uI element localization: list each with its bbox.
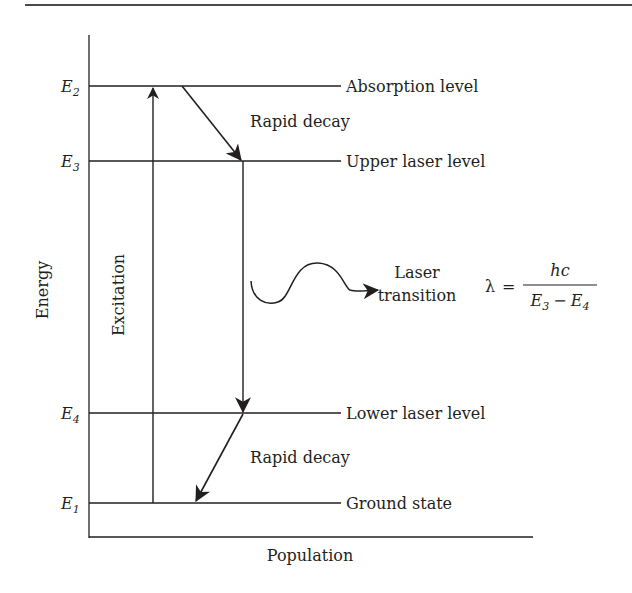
svg-text:Laser: Laser xyxy=(394,263,440,282)
formula-equals: = xyxy=(502,277,515,296)
excitation-label: Excitation xyxy=(109,254,128,336)
photon-wave-arrow-icon xyxy=(251,263,378,303)
level-e3: E3 Upper laser level xyxy=(60,152,485,174)
laser-transition-label: Laser transition xyxy=(378,263,457,305)
formula-numerator: hc xyxy=(550,261,569,280)
level-e3-symbol: E3 xyxy=(60,152,80,174)
svg-text:transition: transition xyxy=(378,286,457,305)
transitions: Excitation Rapid decay Rapid decay xyxy=(109,86,350,503)
formula-denominator: E3−E4 xyxy=(530,291,590,313)
level-e1-symbol: E1 xyxy=(60,494,80,516)
level-e2-symbol: E2 xyxy=(60,77,80,99)
level-e4: E4 Lower laser level xyxy=(60,404,485,426)
level-e1: E1 Ground state xyxy=(60,494,452,516)
level-e3-name: Upper laser level xyxy=(346,152,485,171)
level-e4-name: Lower laser level xyxy=(346,404,485,423)
level-e4-symbol: E4 xyxy=(60,404,80,426)
rapid-decay-lower-label: Rapid decay xyxy=(250,448,350,467)
y-axis-label: Energy xyxy=(33,261,52,319)
wavelength-formula: λ = hc E3−E4 xyxy=(485,261,597,313)
rapid-decay-lower-arrow-icon xyxy=(196,414,243,501)
four-level-laser-diagram: Energy Population E2 Absorption level E3… xyxy=(0,0,632,593)
rapid-decay-upper-arrow-icon xyxy=(182,86,241,160)
rapid-decay-upper-label: Rapid decay xyxy=(250,112,350,131)
level-e2-name: Absorption level xyxy=(345,77,478,96)
x-axis-label: Population xyxy=(267,546,353,565)
level-e2: E2 Absorption level xyxy=(60,77,478,99)
level-e1-name: Ground state xyxy=(346,494,452,513)
formula-lambda: λ xyxy=(485,277,495,296)
